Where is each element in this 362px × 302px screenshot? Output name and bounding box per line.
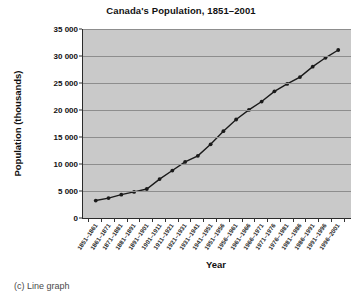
data-point-marker [336, 48, 340, 52]
y-tick-label: 5 000 [26, 187, 78, 196]
data-point-marker [170, 169, 174, 173]
data-point-marker [107, 196, 111, 200]
gridline [83, 164, 351, 165]
line-graph-figure: Canada's Population, 1851–2001 Populatio… [0, 0, 362, 302]
gridline [83, 137, 351, 138]
data-point-marker [196, 154, 200, 158]
gridline [83, 191, 351, 192]
data-point-marker [94, 199, 98, 203]
y-tick-label: 30 000 [26, 52, 78, 61]
x-axis-title: Year [82, 259, 350, 270]
y-tick-label: 35 000 [26, 25, 78, 34]
y-axis-tick-labels: 05 00010 00015 00020 00025 00030 00035 0… [26, 22, 78, 218]
data-point-marker [234, 118, 238, 122]
chart-title: Canada's Population, 1851–2001 [0, 5, 362, 16]
y-tick-label: 10 000 [26, 160, 78, 169]
gridline [83, 110, 351, 111]
data-point-marker [260, 100, 264, 104]
y-axis-title: Population (thousands) [12, 39, 23, 209]
data-point-marker [298, 75, 302, 79]
plot-area [82, 29, 351, 219]
figure-caption: (c) Line graph [14, 281, 70, 291]
data-point-marker [273, 89, 277, 93]
data-point-marker [158, 177, 162, 181]
data-point-marker [311, 65, 315, 69]
data-point-marker [209, 142, 213, 146]
data-series-line [83, 29, 351, 218]
y-tick-label: 20 000 [26, 106, 78, 115]
y-tick-label: 25 000 [26, 79, 78, 88]
gridline [83, 56, 351, 57]
gridline [83, 29, 351, 30]
data-point-marker [221, 129, 225, 133]
data-point-marker [119, 193, 123, 197]
y-tick-label: 15 000 [26, 133, 78, 142]
x-axis-tick-labels: 1851–18611861–18711871–18811881–18911891… [0, 222, 362, 262]
gridline [83, 83, 351, 84]
